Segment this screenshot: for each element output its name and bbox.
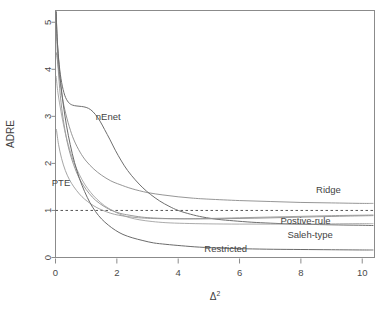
adre-vs-delta-squared-plot: 012345 0246810 RidgenEnetPTEPostive-rule… bbox=[0, 0, 386, 319]
curve-saleh-type bbox=[56, 76, 373, 224]
series-label-saleh-type: Saleh-type bbox=[287, 229, 332, 240]
x-tick-label: 2 bbox=[114, 267, 119, 278]
x-tick-label: 10 bbox=[357, 267, 368, 278]
series-label-restricted: Restricted bbox=[204, 243, 247, 254]
x-tick-label: 4 bbox=[176, 267, 181, 278]
series-label-nenet: nEnet bbox=[96, 111, 121, 122]
y-axis-ticks: 012345 bbox=[42, 20, 56, 261]
y-tick-label: 2 bbox=[42, 161, 53, 166]
series-label-pte: PTE bbox=[52, 177, 70, 188]
y-tick-label: 1 bbox=[42, 208, 53, 213]
y-tick-label: 3 bbox=[42, 114, 53, 119]
series-label-ridge: Ridge bbox=[316, 184, 341, 195]
y-tick-label: 0 bbox=[42, 255, 53, 260]
y-tick-label: 4 bbox=[42, 67, 53, 72]
x-tick-label: 6 bbox=[237, 267, 242, 278]
x-axis-title: Δ2 bbox=[210, 290, 221, 302]
series-label-postive-rule: Postive-rule bbox=[280, 215, 330, 226]
x-axis-title-exponent: 2 bbox=[216, 290, 220, 297]
chart-container: 012345 0246810 RidgenEnetPTEPostive-rule… bbox=[0, 0, 386, 319]
y-tick-label: 5 bbox=[42, 20, 53, 25]
x-tick-label: 0 bbox=[53, 267, 58, 278]
y-axis-title: ADRE bbox=[5, 120, 16, 148]
x-axis-ticks: 0246810 bbox=[53, 259, 368, 278]
series-labels: RidgenEnetPTEPostive-ruleSaleh-typeRestr… bbox=[52, 111, 341, 254]
x-tick-label: 8 bbox=[298, 267, 303, 278]
